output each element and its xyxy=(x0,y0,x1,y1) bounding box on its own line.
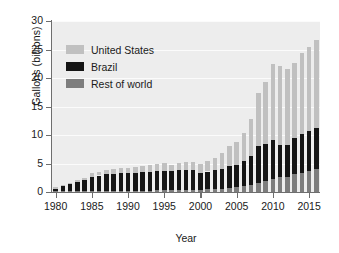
bar-segment xyxy=(227,146,231,165)
x-tick-mark xyxy=(92,193,93,198)
y-tick-label: 25 xyxy=(0,43,43,55)
bar-segment xyxy=(292,63,296,139)
bar-segment xyxy=(177,163,181,170)
bar-segment xyxy=(249,185,253,192)
y-tick-label: 30 xyxy=(0,14,43,26)
bar-segment xyxy=(205,161,209,171)
bar-segment xyxy=(300,134,304,172)
y-tick-mark xyxy=(46,192,51,193)
bar-segment xyxy=(271,140,275,179)
legend-label: Brazil xyxy=(91,61,117,73)
y-tick-label: 10 xyxy=(0,128,43,140)
bar-group xyxy=(184,21,188,192)
bar-group xyxy=(213,21,217,192)
bar-segment xyxy=(140,172,144,191)
x-tick-mark xyxy=(128,193,129,198)
bar-group xyxy=(234,21,238,192)
bar-segment xyxy=(220,153,224,169)
bar-segment xyxy=(242,133,246,161)
bar-segment xyxy=(140,166,144,172)
bar-segment xyxy=(249,156,253,185)
bar-group xyxy=(162,21,166,192)
bar-group xyxy=(242,21,246,192)
bar-group xyxy=(227,21,231,192)
bar-segment xyxy=(90,173,94,176)
x-tick-label: 2010 xyxy=(253,200,293,212)
bar-segment xyxy=(314,128,318,169)
bar-segment xyxy=(220,169,224,189)
chart-legend: United StatesBrazilRest of world xyxy=(66,41,154,92)
x-axis-title: Year xyxy=(52,232,320,244)
bar-segment xyxy=(119,173,123,191)
bar-group xyxy=(177,21,181,192)
bar-group xyxy=(307,21,311,192)
bar-segment xyxy=(278,66,282,145)
y-tick-label: 15 xyxy=(0,100,43,112)
x-tick-mark xyxy=(56,193,57,198)
bar-segment xyxy=(271,179,275,192)
bar-segment xyxy=(227,166,231,188)
bar-group xyxy=(314,21,318,192)
bar-segment xyxy=(292,138,296,174)
bar-segment xyxy=(148,165,152,172)
bar-segment xyxy=(213,158,217,170)
x-tick-label: 2005 xyxy=(217,200,257,212)
bar-segment xyxy=(82,180,86,191)
bar-segment xyxy=(133,167,137,173)
bar-segment xyxy=(256,93,260,145)
legend-swatch-icon xyxy=(66,79,84,88)
bar-segment xyxy=(314,169,318,192)
bar-segment xyxy=(111,174,115,191)
bar-segment xyxy=(133,173,137,191)
bar-segment xyxy=(314,40,318,128)
chart-figure: Gallons (billions) Year United StatesBra… xyxy=(0,0,339,253)
bar-group xyxy=(256,21,260,192)
bar-segment xyxy=(162,163,166,171)
bar-segment xyxy=(97,172,101,176)
bar-segment xyxy=(184,170,188,191)
y-axis-line xyxy=(51,20,52,193)
bar-segment xyxy=(307,171,311,192)
bar-segment xyxy=(285,69,289,144)
bar-segment xyxy=(271,64,275,140)
bar-group xyxy=(169,21,173,192)
x-tick-label: 1980 xyxy=(36,200,76,212)
bar-segment xyxy=(177,170,181,190)
bar-segment xyxy=(198,164,202,173)
bar-group xyxy=(263,21,267,192)
y-tick-label: 5 xyxy=(0,157,43,169)
bar-segment xyxy=(234,165,238,188)
legend-item: Brazil xyxy=(66,58,154,75)
y-tick-label: 0 xyxy=(0,185,43,197)
legend-swatch-icon xyxy=(66,45,84,54)
bar-segment xyxy=(292,174,296,192)
bar-segment xyxy=(155,171,159,190)
x-tick-mark xyxy=(200,193,201,198)
legend-item: United States xyxy=(66,41,154,58)
bar-segment xyxy=(256,183,260,192)
bar-segment xyxy=(53,189,57,192)
bar-segment xyxy=(256,146,260,183)
x-tick-mark xyxy=(164,193,165,198)
bar-group xyxy=(205,21,209,192)
bar-segment xyxy=(90,177,94,191)
bar-segment xyxy=(300,53,304,135)
y-tick-mark xyxy=(46,50,51,51)
bar-segment xyxy=(169,171,173,190)
bar-segment xyxy=(68,183,72,184)
bar-segment xyxy=(263,82,267,144)
x-tick-label: 1995 xyxy=(144,200,184,212)
bar-segment xyxy=(198,173,202,190)
bar-segment xyxy=(184,162,188,170)
bar-segment xyxy=(285,145,289,177)
bar-segment xyxy=(68,184,72,191)
bar-segment xyxy=(249,119,253,156)
bar-segment xyxy=(75,182,79,191)
bar-group xyxy=(53,21,57,192)
bar-segment xyxy=(242,161,246,187)
bar-group xyxy=(61,21,65,192)
bar-segment xyxy=(300,173,304,192)
bar-segment xyxy=(307,131,311,171)
bar-segment xyxy=(213,170,217,189)
bar-group xyxy=(285,21,289,192)
